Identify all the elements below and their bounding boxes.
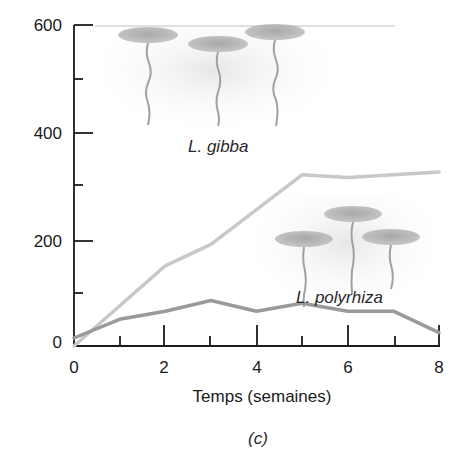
x-axis: 0 2 4 6 8 Temps (semaines) (69, 325, 443, 406)
y-tick-label: 600 (34, 16, 62, 35)
y-tick-label: 200 (34, 232, 62, 251)
x-tick-label: 8 (434, 358, 443, 377)
series-label-gibba: L. gibba (188, 137, 249, 156)
figure-caption: (c) (248, 429, 268, 448)
gibba-illustration (95, 24, 395, 136)
x-tick-label: 0 (69, 358, 78, 377)
series-label-polyrhiza: L. polyrhiza (296, 288, 383, 307)
x-axis-title: Temps (semaines) (193, 387, 332, 406)
x-tick-label: 2 (159, 358, 168, 377)
y-axis: 600 400 200 0 (34, 16, 93, 352)
x-tick-label: 4 (252, 358, 261, 377)
line-chart: 600 400 200 0 0 2 4 6 8 Temps (semaines)… (0, 0, 463, 467)
y-tick-label: 0 (53, 333, 62, 352)
x-tick-label: 6 (343, 358, 352, 377)
y-tick-label: 400 (34, 124, 62, 143)
